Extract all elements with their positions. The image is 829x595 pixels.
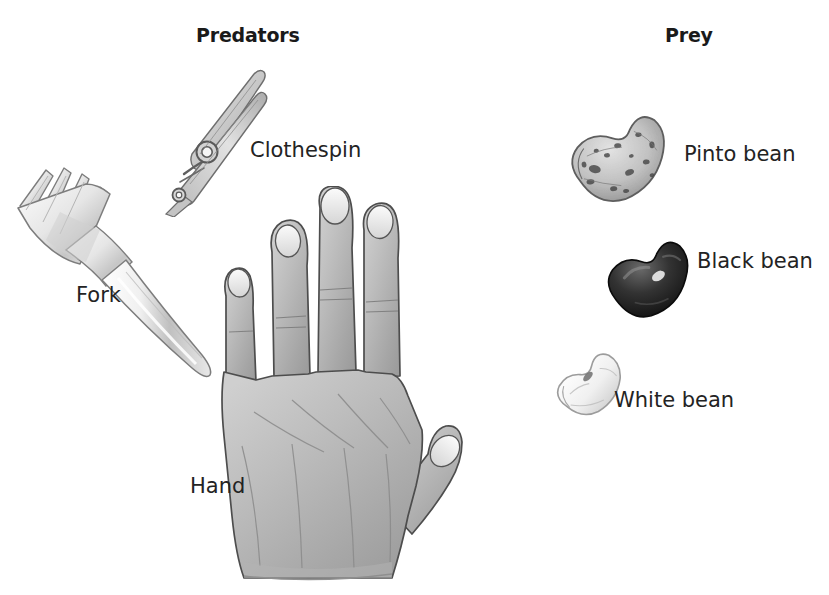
column-heading-predators: Predators (196, 24, 300, 46)
hand-icon (196, 186, 486, 581)
label-hand: Hand (190, 474, 245, 498)
pinto-bean-icon (558, 104, 676, 214)
black-bean-icon (597, 234, 697, 326)
column-heading-prey: Prey (665, 24, 713, 46)
label-black-bean: Black bean (697, 249, 813, 273)
label-pinto-bean: Pinto bean (684, 142, 796, 166)
label-white-bean: White bean (614, 388, 734, 412)
label-clothespin: Clothespin (250, 138, 361, 162)
label-fork: Fork (76, 283, 121, 307)
predator-prey-figure: Predators Prey (0, 0, 829, 595)
